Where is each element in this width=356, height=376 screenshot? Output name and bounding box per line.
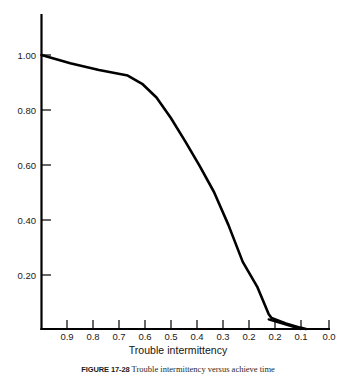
x-tick-label-9: 0.1 <box>294 331 307 342</box>
y-axis-tick-labels: 1.00 0.80 0.60 0.40 0.20 <box>18 50 37 281</box>
line-chart: 1.00 0.80 0.60 0.40 0.20 0.9 0.8 0.7 0.6 <box>0 0 356 376</box>
x-tick-label-2: 0.7 <box>112 331 125 342</box>
y-axis-ticks <box>42 55 52 275</box>
y-tick-label-3: 0.40 <box>18 215 37 226</box>
x-tick-label-6: 0.3 <box>216 331 229 342</box>
x-tick-label-8: 0.2 <box>268 331 281 342</box>
y-tick-label-2: 0.60 <box>18 160 37 171</box>
figure-root: 1.00 0.80 0.60 0.40 0.20 0.9 0.8 0.7 0.6 <box>0 0 356 376</box>
figure-caption-text: Trouble intermittency versus achieve tim… <box>132 364 275 374</box>
y-tick-label-1: 0.80 <box>18 105 37 116</box>
data-line-tail <box>269 319 301 329</box>
x-tick-label-5: 0.4 <box>190 331 203 342</box>
x-tick-label-7: 0.2 <box>242 331 255 342</box>
data-series-group <box>42 55 307 329</box>
figure-caption-label: FIGURE 17-28 <box>81 365 129 374</box>
x-axis-title: Trouble intermittency <box>0 344 356 356</box>
x-tick-label-3: 0.6 <box>138 331 151 342</box>
y-tick-label-4: 0.20 <box>18 270 37 281</box>
x-tick-label-10: 0.0 <box>322 331 335 342</box>
x-axis-tick-labels: 0.9 0.8 0.7 0.6 0.5 0.4 0.3 0.2 0.2 0.1 … <box>60 331 335 342</box>
chart-axes <box>40 14 330 330</box>
x-tick-label-4: 0.5 <box>164 331 177 342</box>
x-tick-label-0: 0.9 <box>60 331 73 342</box>
data-line-main <box>42 55 307 329</box>
y-tick-label-0: 1.00 <box>18 50 37 61</box>
x-tick-label-1: 0.8 <box>86 331 99 342</box>
figure-caption: FIGURE 17-28 Trouble intermittency versu… <box>0 364 356 374</box>
